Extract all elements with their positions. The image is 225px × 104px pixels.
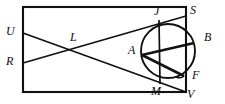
point-label-b: B <box>204 31 211 43</box>
segment-r-s <box>23 16 186 63</box>
point-label-l: L <box>70 31 77 43</box>
point-label-u: U <box>6 25 15 37</box>
point-label-r: R <box>6 55 13 67</box>
segment-a-f <box>142 55 184 76</box>
segment-u-v <box>23 33 186 92</box>
point-label-m: M <box>151 85 161 97</box>
point-label-v: V <box>187 88 194 100</box>
point-label-a: A <box>128 44 135 56</box>
segment-j-m <box>159 20 160 84</box>
geometry-figure: U R L J S B A F M V <box>0 0 225 104</box>
point-label-f: F <box>192 69 199 81</box>
point-label-s: S <box>190 4 196 16</box>
point-label-j: J <box>154 5 159 17</box>
